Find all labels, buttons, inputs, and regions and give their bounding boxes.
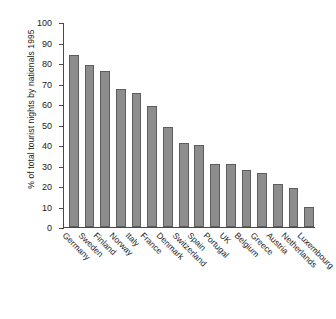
bar [226,164,236,227]
bar [69,55,79,227]
y-tick-mark: 0 [59,228,64,229]
bar [163,127,173,227]
bar [242,170,252,227]
bar [194,145,204,227]
bar [147,106,157,227]
bar [100,71,110,227]
bar [304,207,314,227]
y-tick-label: 90 [42,39,52,48]
y-tick-label: 30 [42,162,52,171]
x-axis-category-labels: GermanySwedenFinlandNorwayItalyFranceDen… [63,231,325,319]
y-tick-label: 20 [42,183,52,192]
bar [210,164,220,227]
y-tick-label: 0 [47,224,52,233]
bar [132,93,142,227]
bar [85,65,95,227]
y-tick-label: 40 [42,142,52,151]
y-tick-label: 80 [42,60,52,69]
bars-layer [64,23,315,227]
y-tick-label: 70 [42,80,52,89]
x-axis-line [63,227,315,228]
y-tick-label: 60 [42,101,52,110]
bar [257,173,267,227]
bar [116,89,126,227]
y-tick-label: 50 [42,121,52,130]
y-axis-title: % of total tourist nights by nationals 1… [26,2,36,216]
bar [273,184,283,227]
y-tick-label: 10 [42,203,52,212]
bar [289,188,299,227]
y-tick-label: 100 [37,19,52,28]
bar [179,143,189,227]
plot-area: 1009080706050403020100 [63,23,315,228]
